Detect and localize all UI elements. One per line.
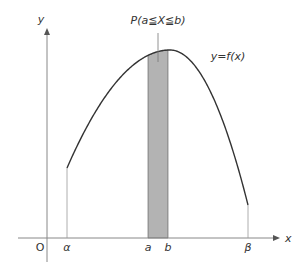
- tick-label-alpha: α: [63, 241, 71, 254]
- y-axis-arrow: [44, 28, 50, 35]
- x-axis-label: x: [284, 232, 292, 245]
- shaded-probability-region: [148, 50, 168, 238]
- probability-density-diagram: y x O α a b β y=f(x) P(a≦X≦b): [0, 0, 296, 270]
- tick-label-beta: β: [243, 241, 251, 254]
- region-label: P(a≦X≦b): [131, 14, 186, 27]
- y-axis-label: y: [37, 13, 45, 26]
- x-axis-arrow: [273, 235, 280, 241]
- tick-label-a: a: [145, 241, 152, 254]
- curve-label: y=f(x): [210, 50, 246, 63]
- tick-label-b: b: [165, 241, 172, 254]
- origin-label: O: [36, 241, 45, 254]
